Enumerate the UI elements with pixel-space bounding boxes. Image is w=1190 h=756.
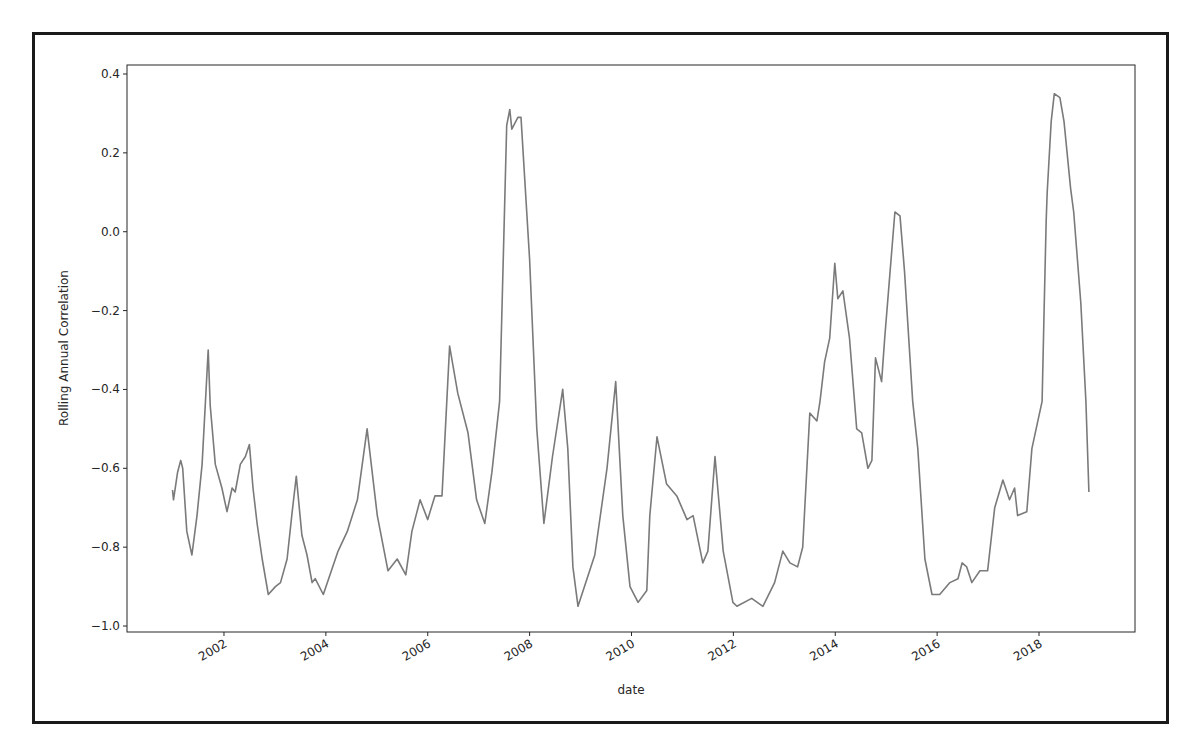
x-tick-label: 2004 [298, 636, 331, 663]
x-axis: 200220042006200820102012201420162018 [196, 632, 1044, 664]
y-tick-label: −0.8 [91, 540, 120, 554]
y-tick-label: −0.4 [91, 382, 120, 396]
x-tick-label: 2018 [1011, 636, 1044, 663]
x-tick-label: 2002 [196, 636, 229, 663]
x-tick-label: 2014 [807, 636, 840, 663]
y-tick-label: −0.6 [91, 461, 120, 475]
y-tick-label: −0.2 [91, 304, 120, 318]
x-tick-label: 2006 [400, 636, 433, 663]
y-tick-label: −1.0 [91, 619, 120, 633]
plot-area [127, 65, 1135, 632]
x-tick-label: 2012 [705, 636, 738, 663]
y-tick-label: 0.4 [101, 67, 120, 81]
y-axis-label: Rolling Annual Correlation [57, 270, 71, 426]
x-axis-label: date [617, 683, 644, 697]
x-tick-label: 2010 [604, 636, 637, 663]
axes-frame [127, 65, 1135, 632]
y-axis: 0.40.20.0−0.2−0.4−0.6−0.8−1.0 [91, 67, 127, 633]
correlation-line [173, 94, 1089, 607]
x-tick-label: 2016 [909, 636, 942, 663]
y-tick-label: 0.0 [101, 225, 120, 239]
y-tick-label: 0.2 [101, 146, 120, 160]
line-chart: 0.40.20.0−0.2−0.4−0.6−0.8−1.0 2002200420… [0, 0, 1190, 756]
x-tick-label: 2008 [502, 636, 535, 663]
